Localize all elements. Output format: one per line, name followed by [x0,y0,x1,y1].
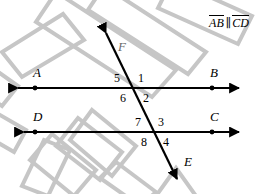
point-label-e: E [184,155,192,168]
segment-cd-label: CD [232,15,249,30]
point-label-d: D [33,110,42,123]
angle-label-3: 3 [158,116,164,128]
point-label-f: F [118,40,126,53]
geometry-figure: AB∥CD A B C D E F 1 2 3 4 5 6 7 8 [0,0,255,194]
angle-label-2: 2 [143,92,149,104]
point-d-dot [33,130,38,135]
angle-label-1: 1 [138,72,144,84]
point-b-dot [210,86,215,91]
point-c-dot [210,130,215,135]
point-label-a: A [33,66,41,79]
point-a-dot [33,86,38,91]
parallel-statement: AB∥CD [209,15,249,30]
parallel-symbol: ∥ [224,16,233,30]
point-label-c: C [210,110,219,123]
segment-ab-label: AB [209,15,224,30]
angle-label-4: 4 [163,136,169,148]
transversal-fe [106,33,177,179]
angle-label-6: 6 [120,92,126,104]
angle-label-7: 7 [135,116,141,128]
point-label-b: B [210,66,218,79]
angle-label-8: 8 [141,136,147,148]
angle-label-5: 5 [114,72,120,84]
